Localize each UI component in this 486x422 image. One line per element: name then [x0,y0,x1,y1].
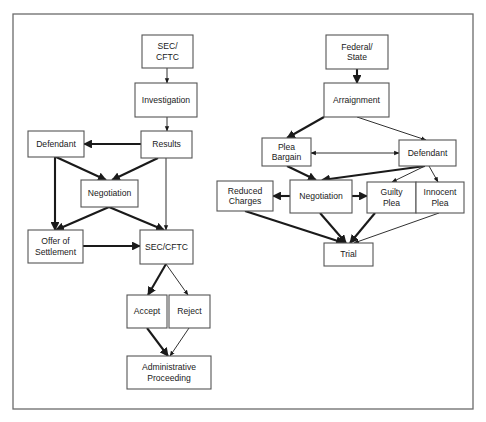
node-label: Reduced [228,186,263,196]
node-label: Plea [431,198,448,208]
node-admin-proceeding: AdministrativeProceeding [127,356,211,389]
node-label: Negotiation [299,191,343,201]
node-label: Arraignment [333,95,380,105]
node-label: Administrative [142,362,196,372]
node-label: Plea [278,142,295,152]
node-label: Plea [383,198,400,208]
node-negotiation-right: Negotiation [290,180,352,213]
node-defendant-right: Defendant [399,140,456,166]
node-innocent-plea: InnocentPlea [416,182,464,213]
node-sec-cftc-mid: SEC/CFTC [140,230,193,264]
node-arraignment: Arraignment [324,83,389,117]
node-label: State [347,52,367,62]
node-guilty-plea: GuiltyPlea [367,182,416,213]
node-label: Accept [134,306,161,316]
node-negotiation-left: Negotiation [81,180,138,207]
node-label: Charges [229,196,261,206]
node-label: Reject [177,306,202,316]
node-results: Results [141,131,192,158]
node-investigation: Investigation [135,83,197,117]
node-label: Innocent [424,187,458,197]
node-trial: Trial [324,243,373,266]
node-label: SEC/CFTC [145,242,188,252]
node-label: Defendant [36,139,76,149]
node-label: Results [152,139,181,149]
node-label: Bargain [272,152,302,162]
node-defendant-left: Defendant [28,131,84,157]
node-label: Settlement [35,247,77,257]
node-sec-cftc-top: SEC/CFTC [142,35,193,68]
node-reduced-charges: ReducedCharges [217,181,273,211]
node-label: CFTC [156,52,179,62]
node-accept: Accept [127,295,167,328]
node-label: Investigation [142,95,190,105]
node-offer-settlement: Offer ofSettlement [28,230,83,263]
node-label: Negotiation [88,188,132,198]
node-label: Proceeding [147,373,191,383]
node-label: Defendant [408,148,448,158]
node-federal-state: Federal/State [326,35,388,69]
node-plea-bargain: PleaBargain [262,138,311,166]
node-reject: Reject [169,295,210,328]
node-label: Federal/ [341,42,373,52]
node-label: Offer of [41,236,70,246]
node-label: Guilty [381,187,404,197]
node-label: Trial [340,249,356,259]
node-label: SEC/ [157,41,178,51]
flowchart-canvas: SEC/CFTCInvestigationResultsDefendantNeg… [0,0,486,422]
